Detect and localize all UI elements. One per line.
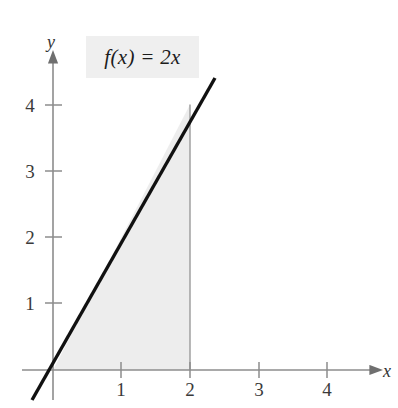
y-tick-label-4: 4 — [22, 96, 38, 115]
x-tick-label-2: 2 — [182, 380, 198, 399]
function-equation-text: f(x) = 2x — [104, 45, 180, 70]
y-tick-label-2: 2 — [22, 228, 38, 247]
plot-canvas — [0, 0, 398, 408]
x-axis-label: x — [383, 362, 391, 380]
y-axis-label: y — [47, 33, 55, 51]
function-graph-figure: 1 2 3 4 1 2 3 4 x y f(x) = 2x — [0, 0, 398, 408]
x-tick-label-4: 4 — [319, 380, 335, 399]
y-tick-label-3: 3 — [22, 162, 38, 181]
function-equation-label: f(x) = 2x — [86, 36, 199, 78]
y-tick-label-1: 1 — [22, 294, 38, 313]
x-tick-label-3: 3 — [251, 380, 267, 399]
x-tick-label-1: 1 — [113, 380, 129, 399]
